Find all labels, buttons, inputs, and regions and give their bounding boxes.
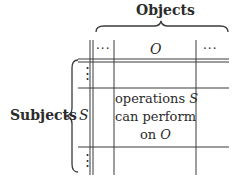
subjects-label: Subjects <box>10 107 77 123</box>
matrix-cell-s-o: operations S can perform on O <box>115 90 196 144</box>
column-header-ellipsis-right: ··· <box>203 42 217 56</box>
access-matrix-diagram: Objects ··· O ··· Subjects ⋮ S ⋮ operati… <box>0 0 244 184</box>
column-header-ellipsis-left: ··· <box>96 42 110 56</box>
objects-brace-icon <box>96 21 228 32</box>
row-header-ellipsis-bottom: ⋮ <box>80 151 95 169</box>
cell-line-3: on O <box>115 126 196 144</box>
objects-label: Objects <box>136 2 195 18</box>
row-header-subject: S <box>79 107 89 123</box>
cell-line-2: can perform <box>115 108 196 126</box>
row-header-ellipsis-top: ⋮ <box>80 64 95 82</box>
cell-line-1: operations S <box>115 90 196 108</box>
column-header-object: O <box>150 41 161 57</box>
